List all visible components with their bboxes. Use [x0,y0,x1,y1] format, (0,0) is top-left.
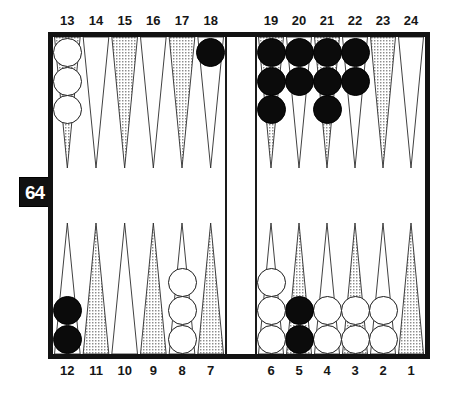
checker-white-point-6[interactable] [257,268,286,297]
checker-white-point-2[interactable] [369,325,398,354]
checker-black-point-19[interactable] [257,38,286,67]
point-label-4: 4 [314,364,340,378]
point-label-20: 20 [286,14,312,28]
point-label-9: 9 [140,364,166,378]
point-triangle-7[interactable] [198,223,224,354]
backgammon-board: 64 131415161718192021222324 121110987654… [0,0,455,396]
checker-white-point-3[interactable] [341,296,370,325]
point-label-12: 12 [54,364,80,378]
point-triangle-24[interactable] [399,37,424,168]
doubling-cube[interactable]: 64 [19,177,50,207]
point-triangle-10[interactable] [112,223,138,354]
point-label-5: 5 [286,364,312,378]
checker-black-point-5[interactable] [285,325,314,354]
checker-white-point-8[interactable] [168,268,197,297]
checker-black-point-5[interactable] [285,296,314,325]
checker-white-point-2[interactable] [369,296,398,325]
point-label-6: 6 [258,364,284,378]
point-triangle-23[interactable] [371,37,396,168]
checker-white-point-6[interactable] [257,325,286,354]
checker-black-point-20[interactable] [285,67,314,96]
point-label-10: 10 [112,364,138,378]
checker-black-point-12[interactable] [53,296,82,325]
point-triangle-11[interactable] [83,223,109,354]
point-label-13: 13 [54,14,80,28]
point-triangle-14[interactable] [83,37,109,168]
checker-white-point-13[interactable] [53,67,82,96]
point-label-18: 18 [198,14,224,28]
checker-black-point-12[interactable] [53,325,82,354]
board-frame [48,32,430,359]
point-label-8: 8 [169,364,195,378]
doubling-cube-value: 64 [25,183,44,202]
checker-white-point-13[interactable] [53,38,82,67]
playfield [53,37,425,354]
point-label-1: 1 [398,364,424,378]
checker-white-point-4[interactable] [313,296,342,325]
checker-white-point-3[interactable] [341,325,370,354]
point-triangle-16[interactable] [141,37,167,168]
point-label-17: 17 [169,14,195,28]
point-label-19: 19 [258,14,284,28]
point-label-16: 16 [140,14,166,28]
point-triangle-9[interactable] [141,223,167,354]
point-label-22: 22 [342,14,368,28]
checker-white-point-4[interactable] [313,325,342,354]
checker-black-point-18[interactable] [196,38,225,67]
point-triangle-15[interactable] [112,37,138,168]
point-label-24: 24 [398,14,424,28]
point-label-7: 7 [198,364,224,378]
checker-white-point-8[interactable] [168,296,197,325]
checker-black-point-21[interactable] [313,38,342,67]
point-label-2: 2 [370,364,396,378]
point-triangle-1[interactable] [399,223,424,354]
checker-black-point-22[interactable] [341,38,370,67]
point-label-14: 14 [83,14,109,28]
point-label-15: 15 [112,14,138,28]
checker-black-point-20[interactable] [285,38,314,67]
point-triangle-17[interactable] [169,37,195,168]
checker-white-point-8[interactable] [168,325,197,354]
checker-black-point-19[interactable] [257,95,286,124]
checker-black-point-21[interactable] [313,67,342,96]
point-label-21: 21 [314,14,340,28]
point-label-23: 23 [370,14,396,28]
point-label-3: 3 [342,364,368,378]
checker-white-point-6[interactable] [257,296,286,325]
checker-white-point-13[interactable] [53,95,82,124]
bar-divider-left [225,37,227,354]
checker-black-point-19[interactable] [257,67,286,96]
checker-black-point-21[interactable] [313,95,342,124]
point-label-11: 11 [83,364,109,378]
checker-black-point-22[interactable] [341,67,370,96]
